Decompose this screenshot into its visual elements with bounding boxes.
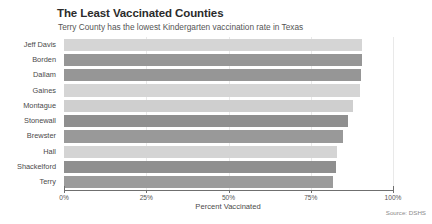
- bar-row[interactable]: [64, 84, 393, 96]
- bar[interactable]: [64, 39, 362, 51]
- x-axis-tick-label: 25%: [140, 194, 153, 201]
- x-axis-end-cap: [393, 186, 394, 191]
- y-axis-tick-label: Stonewall: [24, 117, 56, 124]
- x-axis-tick: [146, 190, 147, 193]
- bar[interactable]: [64, 130, 343, 142]
- x-axis-title: Percent Vaccinated: [195, 202, 260, 211]
- y-axis-tick-label: Brewster: [27, 132, 56, 139]
- bar[interactable]: [64, 69, 361, 81]
- chart-container: The Least Vaccinated Counties Terry Coun…: [0, 0, 432, 224]
- y-axis-tick-label: Borden: [32, 56, 56, 63]
- bar-row[interactable]: [64, 69, 393, 81]
- bar-row[interactable]: [64, 146, 393, 158]
- chart-subtitle: Terry County has the lowest Kindergarten…: [58, 22, 303, 32]
- x-axis-tick: [229, 190, 230, 193]
- bar-row[interactable]: [64, 54, 393, 66]
- x-axis-end-cap: [64, 186, 65, 191]
- y-axis-tick-label: Hall: [43, 148, 56, 155]
- bar-row[interactable]: [64, 161, 393, 173]
- bar[interactable]: [64, 176, 333, 188]
- y-axis-tick-label: Montague: [23, 102, 56, 109]
- bar-row[interactable]: [64, 39, 393, 51]
- x-axis-tick-label: 50%: [222, 194, 235, 201]
- y-axis-tick-label: Terry: [40, 178, 56, 185]
- bar-row[interactable]: [64, 115, 393, 127]
- bar[interactable]: [64, 84, 360, 96]
- x-axis-tick-label: 75%: [304, 194, 317, 201]
- x-axis-tick: [311, 190, 312, 193]
- y-axis-labels: Jeff DavisBordenDallamGainesMontagueSton…: [0, 37, 60, 190]
- y-axis-tick-label: Jeff Davis: [24, 41, 56, 48]
- y-axis-tick-label: Gaines: [33, 87, 56, 94]
- bar[interactable]: [64, 100, 353, 112]
- bar-series: [64, 37, 393, 190]
- bar-row[interactable]: [64, 176, 393, 188]
- x-axis-tick-label: 0%: [59, 194, 69, 201]
- bar-row[interactable]: [64, 130, 393, 142]
- source-note: Source: DSHS: [386, 209, 426, 216]
- bar-row[interactable]: [64, 100, 393, 112]
- bar[interactable]: [64, 161, 336, 173]
- bar[interactable]: [64, 146, 337, 158]
- y-axis-tick-label: Dallam: [33, 71, 56, 78]
- y-axis-tick-label: Shackelford: [17, 163, 56, 170]
- plot-area: [64, 37, 393, 190]
- bar[interactable]: [64, 54, 362, 66]
- bar[interactable]: [64, 115, 348, 127]
- chart-title: The Least Vaccinated Counties: [57, 7, 223, 19]
- x-axis-tick-label: 100%: [385, 194, 402, 201]
- gridline: [393, 37, 394, 190]
